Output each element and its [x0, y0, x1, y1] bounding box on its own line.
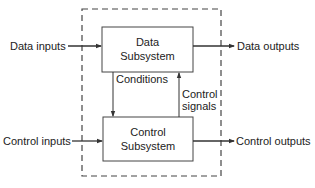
data-outputs-label: Data outputs	[237, 40, 299, 53]
control-signals-line1: Control	[182, 88, 217, 100]
diagram-lines	[0, 0, 315, 188]
conditions-label: Conditions	[116, 73, 168, 86]
control-outputs-label: Control outputs	[236, 135, 311, 148]
control-subsystem-line2: Subsystem	[103, 139, 193, 153]
diagram-canvas: Data Subsystem Control Subsystem Data in…	[0, 0, 315, 188]
control-subsystem-label: Control Subsystem	[103, 125, 193, 153]
data-subsystem-line2: Subsystem	[102, 49, 193, 63]
data-subsystem-label: Data Subsystem	[102, 35, 193, 63]
data-subsystem-line1: Data	[102, 35, 193, 49]
control-signals-label: Control signals	[182, 88, 217, 112]
data-inputs-label: Data inputs	[10, 40, 66, 53]
control-signals-line2: signals	[182, 100, 217, 112]
control-subsystem-line1: Control	[103, 125, 193, 139]
control-inputs-label: Control inputs	[3, 135, 71, 148]
